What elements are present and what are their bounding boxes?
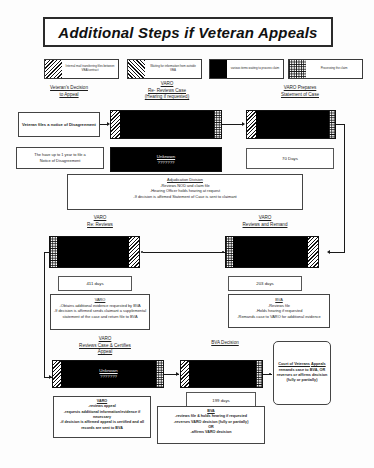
duration-value: 203 days bbox=[256, 281, 273, 286]
bar-segment-checkerboard-icon bbox=[50, 237, 57, 267]
note-one-year-to-file: The have up to 1 year to file a Notice o… bbox=[16, 147, 104, 169]
duration-value: 199 days bbox=[212, 398, 229, 403]
stage-label-line: (Hearing if requested) bbox=[112, 94, 222, 101]
stage-label-line: Reviews Case & Certifies bbox=[50, 343, 160, 350]
legend-label: Internal mail transferring files between… bbox=[62, 60, 118, 78]
node-court-of-veterans-appeals: Court of Veterans Appeals remands case t… bbox=[273, 341, 331, 405]
bar-segment-solid-black: Unknown ??????? bbox=[111, 148, 221, 171]
connector-line bbox=[344, 124, 345, 252]
stage-label-line: BVA Decision bbox=[180, 340, 270, 347]
connector-line bbox=[44, 252, 50, 253]
stage-label-varo-prepares-statement: VARO Prepares Statement of Case bbox=[250, 85, 350, 98]
note-line: -affirms VARO decision bbox=[174, 430, 249, 435]
bar-segment-diagonal-hatch-icon bbox=[111, 111, 120, 138]
process-bar-varo-re-reviews-case bbox=[110, 110, 222, 139]
legend-label: Processing the claim bbox=[306, 60, 362, 78]
note-varo-reviews-appeal: VARO -reviews appeal -requests additiona… bbox=[53, 396, 151, 438]
stage-label-line: VARO bbox=[55, 215, 145, 222]
process-bar-varo-certifies-appeal: Unknown ??????? bbox=[52, 360, 164, 388]
note-line: Notice of Disagreement bbox=[34, 158, 85, 164]
node-line: BVA, OR bbox=[310, 368, 326, 372]
stage-label-varo-re-reviews-case: VARO Re- Reviews Case (Hearing if reques… bbox=[112, 81, 222, 101]
note-line: -reviews file & holds hearing if request… bbox=[174, 414, 249, 419]
stage-label-line: VARO bbox=[112, 81, 222, 88]
duration-statement-of-case: 70 Days bbox=[246, 148, 334, 169]
connector-arrow-icon bbox=[176, 372, 179, 376]
stage-label-line: Re: Reviews bbox=[55, 222, 145, 229]
stage-label-line: to Appeal bbox=[24, 92, 114, 99]
legend-item-waiting-outside-vba: Waiting for information from outside VBA bbox=[127, 59, 202, 79]
note-line: -If decision is affirmed Statement of Ca… bbox=[133, 194, 236, 200]
bar-segment-diagonal-hatch-icon bbox=[247, 111, 256, 138]
stage-label-line: Re- Reviews Case bbox=[112, 88, 222, 95]
bar-segment-diagonal-hatch-icon bbox=[308, 237, 318, 267]
chart-title-box: Additional Steps if Veteran Appeals bbox=[43, 17, 333, 47]
stage-label-varo-re-reviews: VARO Re: Reviews bbox=[55, 215, 145, 228]
process-bar-bva-decision bbox=[180, 360, 263, 388]
stage-label-varo-certifies-appeal: VARO Reviews Case & Certifies Appeal bbox=[50, 336, 160, 356]
bar-segment-solid-black bbox=[120, 111, 214, 138]
bar-segment-solid-black: Unknown ??????? bbox=[61, 361, 156, 387]
note-varo-obtains-evidence: VARO -Obtains additional evidence reques… bbox=[50, 294, 150, 330]
bar-segment-diagonal-hatch-icon bbox=[129, 237, 139, 267]
legend-item-processing-claim: Processing the claim bbox=[288, 59, 363, 79]
connector-arrow-icon bbox=[242, 122, 245, 126]
note-bva-final-decision: BVA -reviews file & holds hearing if req… bbox=[157, 406, 265, 444]
node-title-line: Court of Veterans bbox=[278, 362, 310, 366]
note-bva-reviews-remands: BVA -Reviews file -Holds hearing if requ… bbox=[228, 294, 330, 328]
process-bar-varo-re-reviews bbox=[49, 236, 140, 268]
legend-swatch-diagonal-hatch-icon bbox=[45, 60, 62, 78]
connector-line bbox=[336, 124, 345, 125]
stage-label-line: Reviews and Remand bbox=[205, 222, 325, 229]
bar-segment-solid-black bbox=[233, 237, 308, 267]
node-line: remands case to bbox=[279, 368, 309, 372]
stage-label-line: VARO bbox=[205, 215, 325, 222]
note-adjudication-division: Adjudication Division -Reviews NOD and c… bbox=[67, 174, 303, 210]
node-veteran-files-notice: Veteran files a notice of Disagreement bbox=[18, 112, 100, 137]
node-title-line: Appeals bbox=[311, 362, 326, 366]
bar-segment-checkerboard-icon bbox=[329, 111, 335, 138]
unknown-marks: ??????? bbox=[100, 374, 117, 379]
stage-label-veterans-decision: Veteran's Decision to Appeal bbox=[24, 85, 114, 98]
bar-segment-checkerboard-icon bbox=[226, 237, 233, 267]
legend-item-internal-mail: Internal mail transferring files between… bbox=[44, 59, 119, 79]
connector-line bbox=[143, 252, 225, 253]
legend-item-waiting-items: various items waiting to process claim bbox=[209, 59, 284, 79]
unknown-marks: ??????? bbox=[157, 160, 174, 165]
legend-swatch-diagonal-hatch-icon bbox=[128, 60, 145, 78]
bar-segment-checkerboard-icon bbox=[156, 361, 163, 387]
process-bar-varo-reviews-and-remand bbox=[225, 236, 319, 268]
connector-line bbox=[44, 252, 45, 377]
process-bar-varo-prepares-statement bbox=[246, 110, 336, 139]
legend-label: Waiting for information from outside VBA bbox=[145, 60, 201, 78]
node-line: reverses or bbox=[277, 373, 297, 377]
bar-segment-solid-black bbox=[189, 361, 256, 387]
page-title: Additional Steps if Veteran Appeals bbox=[58, 24, 317, 41]
legend-swatch-checkerboard-icon bbox=[289, 60, 306, 78]
node-unknown-duration-top: Unknown ??????? bbox=[110, 147, 222, 172]
connector-line bbox=[330, 252, 345, 253]
bar-segment-diagonal-hatch-icon bbox=[181, 361, 189, 387]
stage-label-bva-decision: BVA Decision bbox=[180, 340, 270, 347]
note-line: -Remands case to VARO for additional evi… bbox=[237, 314, 320, 320]
note-line: -If decision is affirmed sends claimant … bbox=[53, 308, 147, 319]
connector-line bbox=[222, 124, 244, 125]
legend-swatch-solid-black-icon bbox=[210, 60, 227, 78]
bar-segment-solid-black bbox=[57, 237, 129, 267]
node-text: Veteran files a notice of Disagreement bbox=[22, 122, 96, 128]
bar-segment-solid-black bbox=[256, 111, 329, 138]
node-line: (fully or partially) bbox=[287, 378, 318, 382]
note-line: -if decision is affirmed appeal is certi… bbox=[56, 420, 148, 431]
bar-segment-checkerboard-icon bbox=[214, 111, 221, 138]
stage-label-line: Appeal bbox=[50, 349, 160, 356]
connector-arrow-icon bbox=[327, 250, 330, 254]
duration-varo-reviews-remand: 203 days bbox=[228, 276, 302, 291]
legend-label: various items waiting to process claim bbox=[227, 60, 283, 78]
bar-segment-diagonal-hatch-icon bbox=[53, 361, 61, 387]
duration-value: 70 Days bbox=[282, 156, 298, 161]
duration-value: 411 days bbox=[86, 281, 103, 286]
duration-varo-re-reviews: 411 days bbox=[58, 276, 132, 291]
flowchart-page: Additional Steps if Veteran Appeals Inte… bbox=[0, 0, 374, 468]
stage-label-varo-reviews-and-remand: VARO Reviews and Remand bbox=[205, 215, 325, 228]
stage-label-line: VARO bbox=[50, 336, 160, 343]
